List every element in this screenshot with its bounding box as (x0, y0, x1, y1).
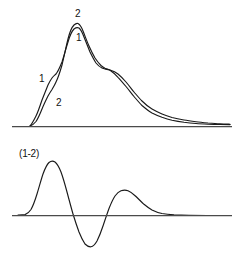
figure-root: 2 1 1 2 (1-2) (0, 0, 247, 254)
trace-curve-1 (30, 28, 230, 126)
peak-label-1: 1 (76, 32, 82, 43)
difference-trace-panel: (1-2) (12, 148, 232, 247)
difference-curve (18, 161, 224, 247)
difference-panel-label: (1-2) (19, 148, 39, 159)
rising-edge-label-1: 1 (39, 73, 45, 84)
trace-curve-2 (30, 23, 230, 126)
figure-canvas: 2 1 1 2 (1-2) (0, 0, 247, 254)
overlaid-traces-panel: 2 1 1 2 (12, 8, 232, 127)
rising-edge-label-2: 2 (56, 97, 62, 108)
peak-label-2: 2 (75, 8, 81, 19)
